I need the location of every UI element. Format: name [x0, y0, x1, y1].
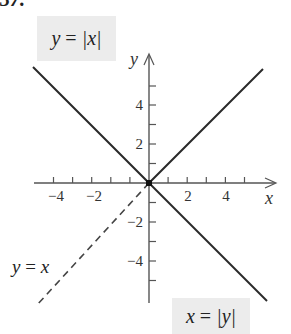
x-tick-label: 2: [184, 188, 192, 204]
label-eq: =: [20, 256, 40, 277]
y-tick-label: −4: [127, 253, 143, 269]
y-tick-label: 2: [136, 136, 144, 152]
label-y-abs-x: y = |x|: [37, 16, 116, 61]
label-rhs: |x|: [82, 27, 102, 50]
x-axis-label: x: [264, 188, 273, 208]
origin-point: [146, 180, 152, 186]
y-tick-label: 4: [136, 97, 144, 113]
curve-y-abs-x: [33, 67, 263, 183]
label-lhs: y: [51, 27, 60, 50]
label-eq: =: [60, 27, 81, 50]
label-eq: =: [195, 305, 216, 328]
x-tick-label: −2: [86, 188, 102, 204]
x-tick-label: −4: [48, 188, 64, 204]
label-lhs: x: [186, 305, 195, 328]
y-axis-label: y: [128, 49, 138, 69]
y-tick-label: −2: [127, 214, 143, 230]
label-x-abs-y: x = |y|: [172, 298, 250, 334]
curve-x-abs-y: [149, 183, 267, 301]
label-rhs: |y|: [216, 305, 236, 328]
label-y-eq-x: y = x: [12, 256, 49, 278]
x-tick-label: 4: [222, 188, 230, 204]
label-rhs: x: [41, 256, 49, 277]
